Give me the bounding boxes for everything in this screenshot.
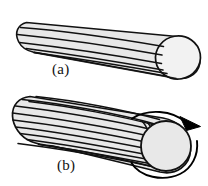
panel-a-caption: (a) bbox=[52, 62, 70, 77]
endcap-b-circle bbox=[141, 121, 191, 171]
panel-b-twisted-bundle bbox=[12, 97, 200, 178]
figure-container: (a) (b) bbox=[0, 0, 208, 186]
panel-b-caption: (b) bbox=[57, 158, 75, 173]
fiber-bundle-diagram bbox=[0, 0, 208, 186]
panel-a-untwisted-bundle bbox=[17, 23, 204, 83]
